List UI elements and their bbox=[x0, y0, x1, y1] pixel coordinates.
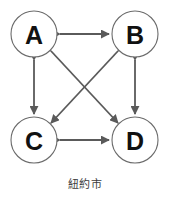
node-b-label: B bbox=[126, 21, 144, 49]
node-c[interactable]: C bbox=[11, 117, 57, 163]
node-d-label: D bbox=[126, 127, 144, 155]
graph-figure: A B C D 紐約市 bbox=[0, 0, 170, 207]
node-c-label: C bbox=[25, 127, 43, 155]
figure-caption: 紐約市 bbox=[0, 178, 170, 192]
node-a-label: A bbox=[25, 21, 43, 49]
graph-canvas: A B C D bbox=[0, 0, 170, 175]
node-b[interactable]: B bbox=[112, 11, 158, 57]
node-a[interactable]: A bbox=[11, 11, 57, 57]
node-d[interactable]: D bbox=[112, 117, 158, 163]
